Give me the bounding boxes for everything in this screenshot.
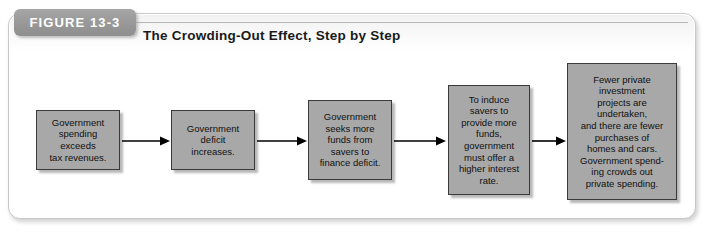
figure-number-tab: FIGURE 13-3 [14,9,136,36]
flow-arrow-4 [532,136,566,146]
flow-box-step-1-text: Government spending exceeds tax revenues… [46,117,109,163]
flow-box-step-5: Fewer private investment projects are un… [567,63,677,200]
flow-box-step-5-text: Fewer private investment projects are un… [577,74,667,190]
flow-box-step-1: Government spending exceeds tax revenues… [36,110,120,170]
flow-arrow-2 [257,136,307,146]
flow-box-step-2: Government deficit increases. [171,110,255,170]
figure-number-label: FIGURE 13-3 [30,15,121,30]
title-rule-line [136,22,688,23]
flow-box-step-4-text: To induce savers to provide more funds, … [456,94,522,187]
flow-box-step-2-text: Government deficit increases. [184,123,242,158]
flow-box-step-4: To induce savers to provide more funds, … [448,85,530,195]
figure-title: The Crowding-Out Effect, Step by Step [143,28,401,43]
flow-arrow-1 [122,136,170,146]
flow-box-step-3: Government seeks more funds from savers … [308,100,392,180]
flow-box-step-3-text: Government seeks more funds from savers … [317,111,384,169]
flow-arrow-3 [394,136,446,146]
figure-container: FIGURE 13-3 The Crowding-Out Effect, Ste… [0,0,715,234]
